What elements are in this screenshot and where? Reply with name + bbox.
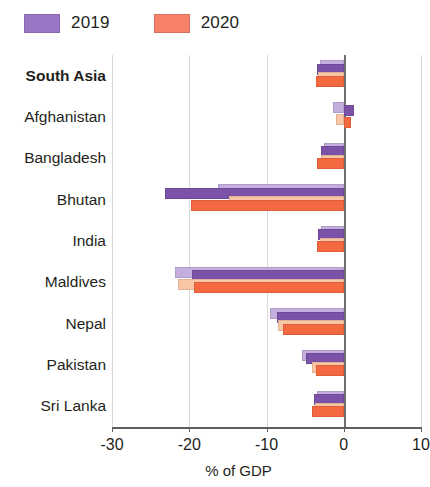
category-label-afghanistan: Afghanistan [0, 109, 106, 125]
category-label-india: India [0, 233, 106, 249]
gridline--20 [189, 55, 190, 427]
x-tick-label--10: -10 [255, 436, 278, 454]
x-axis-title: % of GDP [0, 462, 429, 479]
legend-label-2020: 2020 [201, 13, 240, 33]
bar-india-2020 [317, 241, 344, 252]
bar-south-asia-2020 [316, 76, 344, 87]
x-tick-label--20: -20 [178, 436, 201, 454]
category-label-pakistan: Pakistan [0, 357, 106, 373]
x-tick-10 [421, 427, 422, 432]
bar-maldives-2020 [194, 282, 344, 293]
category-label-bangladesh: Bangladesh [0, 150, 106, 166]
x-tick-label-0: 0 [339, 436, 348, 454]
bar-afghanistan-2019 [344, 105, 354, 116]
bar-bhutan-2020 [191, 200, 344, 211]
legend-label-2019: 2019 [71, 13, 110, 33]
legend-swatch-2019 [24, 14, 60, 33]
x-tick-0 [344, 427, 345, 432]
gridline--30 [112, 55, 113, 427]
legend-item-2019: 2019 [24, 13, 110, 33]
x-axis-title-text: % of GDP [157, 462, 272, 479]
x-tick--20 [189, 427, 190, 432]
bar-light-afghanistan-2019 [333, 102, 344, 113]
x-tick-label--30: -30 [100, 436, 123, 454]
bar-sri-lanka-2020 [312, 406, 344, 417]
category-label-maldives: Maldives [0, 274, 106, 290]
legend-item-2020: 2020 [154, 13, 240, 33]
category-label-nepal: Nepal [0, 316, 106, 332]
x-tick--30 [112, 427, 113, 432]
bar-nepal-2020 [283, 324, 344, 335]
legend-swatch-2020 [154, 14, 190, 33]
gridline-10 [421, 55, 422, 427]
category-label-bhutan: Bhutan [0, 192, 106, 208]
plot-area [112, 55, 421, 427]
bar-pakistan-2020 [316, 365, 344, 376]
x-tick--10 [267, 427, 268, 432]
bar-bangladesh-2020 [317, 158, 343, 169]
gridline--10 [267, 55, 268, 427]
bar-light-afghanistan-2020 [336, 114, 344, 125]
bar-afghanistan-2020 [344, 117, 352, 128]
chart-legend: 2019 2020 [24, 10, 239, 36]
category-axis-labels: South AsiaAfghanistanBangladeshBhutanInd… [0, 55, 106, 427]
category-label-south-asia: South Asia [0, 68, 106, 84]
x-tick-label-10: 10 [412, 436, 430, 454]
category-label-sri-lanka: Sri Lanka [0, 398, 106, 414]
